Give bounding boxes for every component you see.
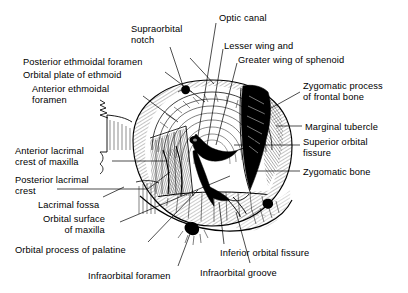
label-marginal-tubercle: Marginal tubercle [305,122,378,133]
label-lesser-wing: Lesser wing and [224,41,293,52]
leader-lesser-wing [206,49,223,152]
leader-infraorbital-foramen [178,234,190,266]
label-supraorbital-notch: Supraorbital notch [131,24,182,45]
label-optic-canal: Optic canal [219,13,267,24]
ethmoid-suture-detail [100,100,132,174]
label-infraorbital-groove: Infraorbital groove [200,268,277,279]
label-zygomatic-bone: Zygomatic bone [303,167,371,178]
label-anterior-lacrimal-crest: Anterior lacrimal crest of maxilla [15,146,84,167]
label-posterior-lacrimal-crest: Posterior lacrimal crest [15,175,89,196]
leader-lacrimal-fossa [103,187,124,197]
label-orbital-plate-of-ethmoid: Orbital plate of ethmoid [23,70,122,81]
label-zygomatic-process-frontal: Zygomatic process of frontal bone [303,81,383,102]
label-inferior-orbital-fissure: Inferior orbital fissure [220,248,309,259]
label-infraorbital-foramen: Infraorbital foramen [88,271,171,282]
orbit-anatomy-figure: Supraorbital notch Optic canal Lesser wi… [0,0,408,293]
leader-supraorbital-notch [170,47,183,86]
label-posterior-ethmoidal-foramen: Posterior ethmoidal foramen [23,57,142,68]
leader-greater-wing [216,63,237,145]
label-greater-wing-of-sphenoid: Greater wing of sphenoid [238,55,344,66]
label-lacrimal-fossa: Lacrimal fossa [38,200,99,211]
label-orbital-surface-of-maxilla: Orbital surface of maxilla [43,214,105,235]
label-anterior-ethmoidal-foramen: Anterior ethmoidal foramen [32,84,109,105]
label-orbital-process-of-palatine: Orbital process of palatine [15,245,126,256]
label-superior-orbital-fissure: Superior orbital fissure [303,137,368,158]
